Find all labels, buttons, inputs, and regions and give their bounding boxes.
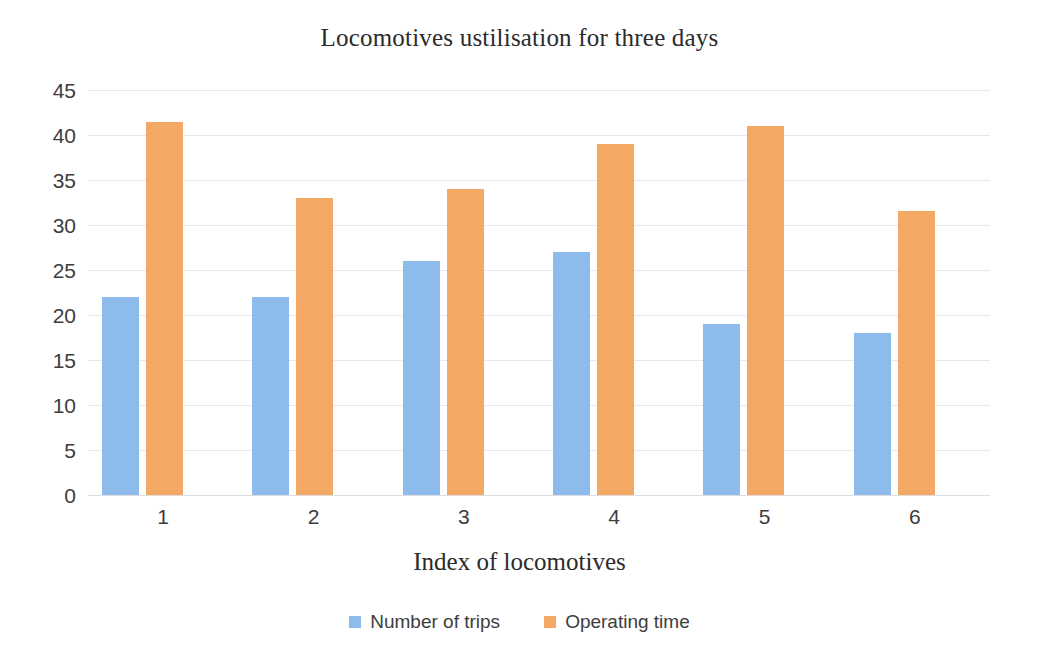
y-axis-tick-label: 30 [14, 215, 76, 236]
y-axis-tick-label: 15 [14, 350, 76, 371]
bar-group [689, 90, 839, 495]
x-axis: 123456 [88, 506, 990, 536]
bar [403, 261, 440, 495]
y-axis-tick-label: 25 [14, 260, 76, 281]
legend-item[interactable]: Number of trips [349, 612, 500, 631]
chart-title: Locomotives ustilisation for three days [0, 24, 1039, 52]
bar-group [389, 90, 539, 495]
x-axis-tick-label: 4 [559, 506, 669, 527]
x-axis-title: Index of locomotives [0, 548, 1039, 576]
y-axis-tick-label: 35 [14, 170, 76, 191]
bar [854, 333, 891, 495]
bar [102, 297, 139, 495]
y-axis-tick-label: 10 [14, 395, 76, 416]
x-axis-tick-label: 5 [710, 506, 820, 527]
gridline [88, 495, 990, 496]
chart-legend: Number of tripsOperating time [0, 612, 1039, 631]
x-axis-tick-label: 3 [409, 506, 519, 527]
bar [447, 189, 484, 495]
y-axis-tick-label: 20 [14, 305, 76, 326]
x-axis-tick-label: 1 [108, 506, 218, 527]
bar [597, 144, 634, 495]
legend-label: Number of trips [370, 612, 500, 631]
x-axis-tick-label: 2 [259, 506, 369, 527]
legend-item[interactable]: Operating time [544, 612, 690, 631]
bar [146, 122, 183, 496]
y-axis-tick-label: 45 [14, 80, 76, 101]
legend-label: Operating time [565, 612, 690, 631]
bar-group [539, 90, 689, 495]
bar [747, 126, 784, 495]
bar [553, 252, 590, 495]
legend-swatch-icon [349, 616, 361, 628]
legend-swatch-icon [544, 616, 556, 628]
y-axis: 454035302520151050 [14, 90, 76, 495]
y-axis-tick-label: 5 [14, 440, 76, 461]
bar-group [840, 90, 990, 495]
bar-group [238, 90, 388, 495]
bars-layer [88, 90, 990, 495]
bar-chart: Locomotives ustilisation for three days … [0, 0, 1039, 666]
y-axis-tick-label: 40 [14, 125, 76, 146]
y-axis-tick-label: 0 [14, 485, 76, 506]
x-axis-tick-label: 6 [860, 506, 970, 527]
bar [296, 198, 333, 495]
bar-group [88, 90, 238, 495]
bar [252, 297, 289, 495]
bar [898, 211, 935, 495]
bar [703, 324, 740, 495]
